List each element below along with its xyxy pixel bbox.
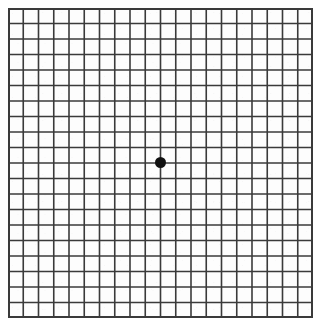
amsler-grid-page bbox=[0, 0, 321, 328]
amsler-grid-chart bbox=[8, 8, 313, 318]
grid-lines-canvas bbox=[8, 8, 313, 318]
